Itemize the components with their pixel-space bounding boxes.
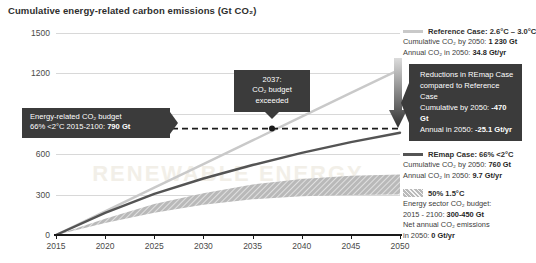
y-tick-1200: 1200 (31, 68, 50, 78)
legend-reference-title: Reference Case: 2.6°C – 3.0°C (428, 27, 536, 36)
legend-panel: Reference Case: 2.6°C – 3.0°C Cumulative… (403, 27, 533, 245)
x-tickmark-2050 (400, 235, 401, 239)
reductions-cumulative: Cumulative by 2050: -470 Gt (420, 102, 515, 124)
callout-budget-line2-prefix: 66% <2°C 2015-2100: (30, 122, 107, 131)
legend-band-head: 50% 1.5°C (403, 189, 533, 198)
callout-2037-year: 2037: (238, 75, 306, 85)
legend-remap-title: REmap Case: 66% <2°C (428, 150, 514, 159)
y-tick-600: 600 (36, 149, 50, 159)
y-tick-300: 300 (36, 190, 50, 200)
legend-band-line1: Energy sector CO₂ budget: (403, 199, 533, 210)
reference-case-line (56, 69, 400, 235)
legend-band-budget-prefix: 2015 - 2100: (403, 210, 447, 219)
callout-budget-line2: 66% <2°C 2015-2100: 790 Gt (30, 122, 162, 132)
legend-remap-annual-value: 9.7 Gt/yr (472, 171, 502, 180)
x-tick-2040: 2040 (292, 241, 311, 251)
line-swatch-icon-reference (403, 30, 423, 33)
x-axis (54, 234, 402, 236)
legend-band-title: 50% 1.5°C (428, 189, 464, 198)
legend-reference-annual: Annual CO₂ in 2050: 34.8 Gt/yr (403, 48, 533, 59)
callout-2037-line2: exceeded (238, 96, 306, 106)
reductions-annual-value: -25.1 Gt/yr (475, 125, 512, 134)
line-swatch-icon-remap (403, 153, 423, 156)
y-tick-0: 0 (45, 230, 50, 240)
reductions-line2: compared to Reference Case (420, 80, 515, 102)
legend-band-net: in 2050: 0 Gt/yr (403, 231, 533, 242)
reductions-annual: Annual in 2050: -25.1 Gt/yr (420, 124, 515, 135)
legend-reference-head: Reference Case: 2.6°C – 3.0°C (403, 27, 533, 36)
x-tick-2030: 2030 (194, 241, 213, 251)
reductions-line1: Reductions in REmap Case (420, 69, 515, 80)
reductions-cumulative-prefix: Cumulative by 2050: (420, 103, 491, 112)
hatch-swatch-icon-budget-band (403, 189, 423, 197)
legend-reference-cumulative: Cumulative CO₂ by 2050: 1 230 Gt (403, 37, 533, 48)
legend-reference-cumulative-prefix: Cumulative CO₂ by 2050: (403, 37, 488, 46)
x-tickmark-2035 (253, 235, 254, 239)
legend-remap-annual: Annual CO₂ in 2050: 9.7 Gt/yr (403, 171, 533, 182)
budget-band (56, 174, 400, 235)
reductions-callout: Reductions in REmap Case compared to Ref… (409, 64, 522, 141)
budget-exceeded-point (269, 126, 275, 132)
legend-item-reference-case: Reference Case: 2.6°C – 3.0°C Cumulative… (403, 27, 533, 58)
page-title: Cumulative energy-related carbon emissio… (8, 5, 256, 16)
legend-item-remap-case: REmap Case: 66% <2°C Cumulative CO₂ by 2… (403, 150, 533, 181)
callout-budget-value: 790 Gt (107, 122, 130, 131)
legend-band-line3: Net annual CO₂ emissions (403, 220, 533, 231)
y-tick-1500: 1500 (31, 28, 50, 38)
callout-2037-line1: CO₂ budget (238, 85, 306, 95)
x-tick-2015: 2015 (47, 241, 66, 251)
x-tick-2025: 2025 (145, 241, 164, 251)
callout-budget-exceeded: 2037: CO₂ budget exceeded (234, 70, 310, 112)
callout-energy-budget: Energy-related CO₂ budget 66% <2°C 2015-… (22, 108, 170, 138)
legend-remap-annual-prefix: Annual CO₂ in 2050: (403, 171, 472, 180)
legend-remap-cumulative: Cumulative CO₂ by 2050: 760 Gt (403, 160, 533, 171)
x-tickmark-2045 (351, 235, 352, 239)
legend-band-net-value: 0 Gt/yr (431, 231, 454, 240)
x-tickmark-2020 (105, 235, 106, 239)
x-tick-2035: 2035 (243, 241, 262, 251)
x-tickmark-2025 (154, 235, 155, 239)
x-tickmark-2040 (302, 235, 303, 239)
legend-band-budget-value: 300-450 Gt (447, 210, 484, 219)
legend-band-net-prefix: in 2050: (403, 231, 431, 240)
legend-remap-cumulative-prefix: Cumulative CO₂ by 2050: (403, 160, 488, 169)
legend-band-budget: 2015 - 2100: 300-450 Gt (403, 210, 533, 221)
x-tick-2020: 2020 (96, 241, 115, 251)
reductions-annual-prefix: Annual in 2050: (420, 125, 475, 134)
legend-remap-cumulative-value: 760 Gt (488, 160, 511, 169)
legend-reference-cumulative-value: 1 230 Gt (488, 37, 517, 46)
legend-reference-annual-prefix: Annual CO₂ in 2050: (403, 48, 472, 57)
x-tickmark-2015 (56, 235, 57, 239)
x-tickmark-2030 (203, 235, 204, 239)
legend-remap-head: REmap Case: 66% <2°C (403, 150, 533, 159)
legend-item-budget-band: 50% 1.5°C Energy sector CO₂ budget: 2015… (403, 189, 533, 242)
callout-budget-line1: Energy-related CO₂ budget (30, 112, 162, 122)
x-tick-2045: 2045 (341, 241, 360, 251)
legend-reference-annual-value: 34.8 Gt/yr (472, 48, 506, 57)
